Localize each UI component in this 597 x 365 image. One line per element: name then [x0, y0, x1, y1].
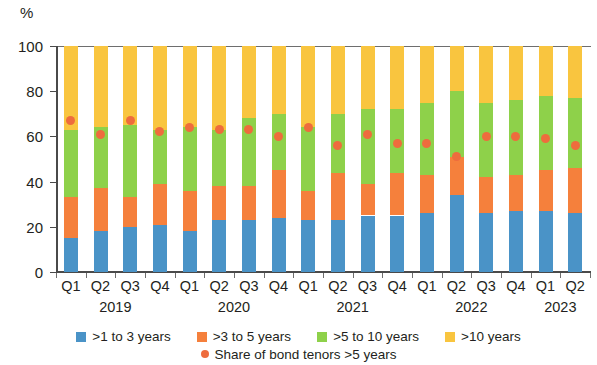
bar-group[interactable] — [153, 46, 167, 272]
bar-segment — [212, 46, 226, 130]
bar-segment — [272, 170, 286, 217]
bar-segment — [183, 231, 197, 272]
bar-segment — [539, 170, 553, 211]
bar-segment — [272, 46, 286, 114]
y-axis-tick-label: 100 — [0, 39, 43, 54]
legend-item[interactable]: >3 to 5 years — [197, 330, 291, 344]
bar-segment — [242, 46, 256, 118]
bar-segment — [183, 127, 197, 190]
bar-segment — [212, 130, 226, 187]
legend-item-label: >10 years — [461, 330, 521, 344]
overlay-data-point[interactable] — [393, 139, 402, 148]
bar-segment — [509, 175, 523, 211]
overlay-data-point[interactable] — [274, 132, 283, 141]
overlay-data-point[interactable] — [185, 123, 194, 132]
bar-segment — [568, 46, 582, 98]
bar-segment — [420, 213, 434, 272]
bar-group[interactable] — [272, 46, 286, 272]
bar-segment — [390, 216, 404, 273]
y-axis-tick-label: 0 — [0, 265, 43, 280]
bar-segment — [242, 186, 256, 220]
x-axis-tick — [353, 273, 354, 278]
bar-segment — [450, 157, 464, 195]
bar-group[interactable] — [390, 46, 404, 272]
bar-segment — [242, 220, 256, 272]
legend-item-label: >1 to 3 years — [92, 330, 170, 344]
bar-segment — [94, 46, 108, 127]
x-axis-tick — [412, 273, 413, 278]
x-axis-tick — [590, 273, 591, 278]
bar-segment — [183, 46, 197, 127]
bar-group[interactable] — [183, 46, 197, 272]
bar-segment — [479, 177, 493, 213]
bar-group[interactable] — [420, 46, 434, 272]
x-axis-quarter-label: Q2 — [555, 279, 595, 295]
bar-segment — [568, 98, 582, 168]
bar-group[interactable] — [479, 46, 493, 272]
overlay-data-point[interactable] — [482, 132, 491, 141]
legend-item[interactable]: >10 years — [445, 330, 521, 344]
x-axis-tick — [471, 273, 472, 278]
x-axis-year-label: 2023 — [520, 300, 597, 316]
y-axis-tick-label: 60 — [0, 129, 43, 144]
bar-segment — [539, 96, 553, 171]
legend-square-icon — [76, 332, 86, 342]
bar-group[interactable] — [242, 46, 256, 272]
x-axis-tick — [145, 273, 146, 278]
bar-segment — [153, 46, 167, 130]
bar-segment — [390, 46, 404, 109]
bar-group[interactable] — [301, 46, 315, 272]
overlay-data-point[interactable] — [126, 116, 135, 125]
bar-segment — [123, 197, 137, 226]
bar-group[interactable] — [212, 46, 226, 272]
x-axis-tick — [175, 273, 176, 278]
stacked-bar-chart: % 020406080100 Q1Q2Q3Q4Q1Q2Q3Q4Q1Q2Q3Q4Q… — [0, 0, 597, 365]
legend-item-label: >5 to 10 years — [333, 330, 419, 344]
legend-item[interactable]: >1 to 3 years — [76, 330, 170, 344]
bar-segment — [420, 175, 434, 213]
y-axis-tick-label: 20 — [0, 219, 43, 234]
bar-segment — [153, 184, 167, 225]
bar-group[interactable] — [64, 46, 78, 272]
bar-segment — [64, 130, 78, 198]
bar-segment — [450, 195, 464, 272]
bar-segment — [123, 227, 137, 272]
x-axis-tick — [115, 273, 116, 278]
bar-segment — [64, 197, 78, 238]
overlay-data-point[interactable] — [96, 130, 105, 139]
legend-item[interactable]: >5 to 10 years — [317, 330, 419, 344]
overlay-data-point[interactable] — [363, 130, 372, 139]
overlay-data-point[interactable] — [215, 125, 224, 134]
legend-circle-icon — [201, 350, 209, 358]
x-axis-year-label: 2021 — [313, 300, 393, 316]
bar-group[interactable] — [123, 46, 137, 272]
bar-group[interactable] — [94, 46, 108, 272]
bar-segment — [301, 220, 315, 272]
legend-square-icon — [317, 332, 327, 342]
overlay-data-point[interactable] — [304, 123, 313, 132]
overlay-data-point[interactable] — [422, 139, 431, 148]
x-axis-year-label: 2019 — [75, 300, 155, 316]
bar-group[interactable] — [361, 46, 375, 272]
bar-segment — [539, 46, 553, 96]
bar-group[interactable] — [331, 46, 345, 272]
bar-group[interactable] — [539, 46, 553, 272]
bar-segment — [361, 109, 375, 184]
bar-segment — [123, 46, 137, 125]
bar-segment — [212, 186, 226, 220]
x-axis-tick — [560, 273, 561, 278]
y-axis-unit-label: % — [20, 5, 34, 20]
bar-segment — [568, 213, 582, 272]
bar-segment — [272, 114, 286, 171]
bar-segment — [153, 130, 167, 184]
bar-segment — [450, 46, 464, 91]
bar-segment — [153, 225, 167, 272]
bar-segment — [64, 238, 78, 272]
bar-group[interactable] — [568, 46, 582, 272]
x-axis-tick — [323, 273, 324, 278]
overlay-data-point[interactable] — [571, 141, 580, 150]
legend-item[interactable]: Share of bond tenors >5 years — [201, 348, 397, 362]
bar-segment — [450, 91, 464, 157]
bar-group[interactable] — [509, 46, 523, 272]
legend-square-icon — [445, 332, 455, 342]
